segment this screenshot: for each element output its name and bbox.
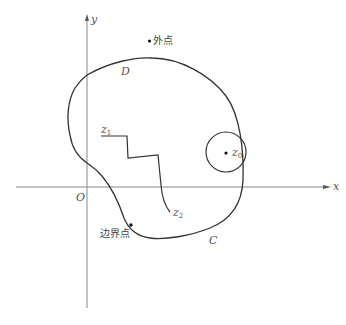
polyline-path-z1-z2 (101, 136, 170, 212)
x-axis-arrow-icon (323, 185, 331, 189)
z1-label: z1 (101, 124, 111, 137)
complex-plane-diagram (0, 0, 346, 325)
y-axis-label: y (91, 14, 97, 25)
origin-label: O (76, 192, 85, 203)
y-axis-arrow-icon (85, 14, 89, 21)
z0-point-icon (224, 151, 227, 154)
z0-label: z0 (232, 147, 242, 160)
region-label-d: D (121, 66, 130, 77)
boundary-label-c: C (209, 235, 217, 246)
x-axis-label: x (333, 181, 339, 192)
exterior-point-label: 外点 (153, 36, 173, 46)
exterior-point-icon (148, 39, 151, 42)
boundary-point-label: 边界点 (100, 229, 130, 239)
boundary-curve-c (68, 58, 243, 239)
boundary-point-icon (129, 223, 132, 226)
z2-label: z2 (173, 207, 183, 220)
